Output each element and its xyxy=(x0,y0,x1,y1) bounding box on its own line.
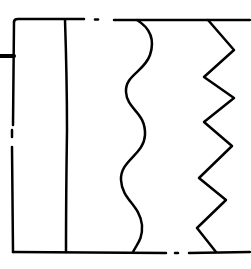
frame-bottom-edge-left xyxy=(13,252,166,253)
zigzag-line xyxy=(197,20,234,252)
line-types-diagram xyxy=(0,0,251,269)
wavy-line xyxy=(121,20,152,252)
frame-border xyxy=(12,19,250,253)
frame-top-edge xyxy=(14,19,84,22)
diagram-svg xyxy=(0,0,251,269)
frame-left-edge-lower xyxy=(12,147,13,252)
frame-left-edge-upper xyxy=(13,22,14,125)
straight-line xyxy=(65,20,67,252)
frame-bottom-edge-right xyxy=(189,252,250,253)
